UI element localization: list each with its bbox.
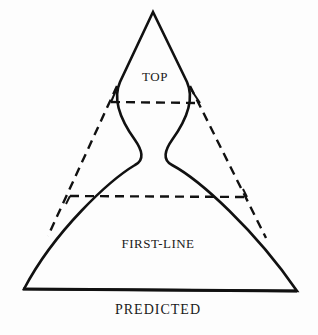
upper-dashed-divider — [111, 102, 200, 103]
predicted-label: PREDICTED — [115, 302, 201, 318]
predicted-right-side — [190, 86, 266, 238]
top-label: TOP — [142, 69, 168, 85]
diagram-canvas: TOP FIRST-LINE PREDICTED — [0, 0, 318, 335]
base-line — [23, 289, 297, 291]
upper-right-tick — [190, 88, 200, 103]
predicted-left-side — [48, 86, 117, 236]
first-line-label: FIRST-LINE — [121, 236, 194, 252]
pyramid-diagram — [0, 0, 318, 335]
